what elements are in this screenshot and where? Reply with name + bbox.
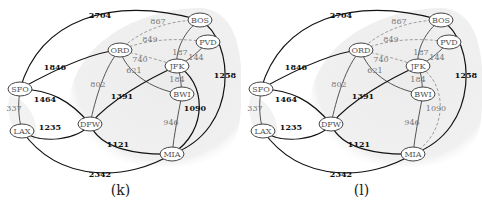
- edge-weight-label: 621: [126, 66, 141, 75]
- edge-weight-label: 2704: [330, 10, 353, 20]
- node-dfw: DFW: [319, 117, 343, 131]
- node-dfw: DFW: [78, 117, 102, 131]
- node-mia: MIA: [401, 147, 425, 161]
- caption-l: (l): [241, 182, 482, 198]
- edge-weight-label: 1464: [34, 94, 57, 104]
- node-label: LAX: [14, 127, 31, 136]
- edge-weight-label: 1258: [455, 70, 478, 80]
- edge-weight-label: 1391: [352, 91, 374, 101]
- node-label: SFO: [11, 85, 29, 94]
- panel-l: 2704867849740187144184662180218412581391…: [241, 0, 482, 220]
- node-label: JFK: [169, 62, 186, 71]
- node-label: ORD: [111, 46, 130, 55]
- node-label: LAX: [255, 127, 272, 136]
- edge-weight-label: 187: [172, 48, 187, 57]
- edge-weight-label: 1846: [285, 62, 308, 72]
- edge-weight-label: 187: [413, 48, 428, 57]
- node-ord: ORD: [108, 43, 132, 57]
- edge-weight-label: 1235: [39, 122, 61, 132]
- edge-weight-label: 337: [247, 104, 262, 113]
- node-label: MIA: [404, 150, 421, 159]
- node-jfk: JFK: [406, 59, 430, 73]
- edge-weight-label: 946: [163, 118, 178, 127]
- edge-weight-label: 184: [169, 75, 184, 84]
- node-label: SFO: [252, 85, 270, 94]
- edge-weight-label: 184: [410, 75, 425, 84]
- edge-weight-label: 2342: [89, 169, 111, 179]
- node-label: DFW: [321, 120, 342, 129]
- node-sfo: SFO: [8, 82, 32, 96]
- node-bos: BOS: [429, 13, 453, 27]
- edge-weight-label: 2704: [89, 10, 112, 20]
- edge-weight-label: 1391: [111, 91, 133, 101]
- edge-weight-label: 849: [383, 35, 398, 44]
- edge-weight-label: 946: [404, 118, 419, 127]
- node-label: JFK: [410, 62, 427, 71]
- edge-weight-label: 337: [6, 104, 21, 113]
- edge-weight-label: 1258: [214, 70, 237, 80]
- node-label: BWI: [414, 90, 431, 99]
- edge-weight-label: 849: [142, 35, 157, 44]
- node-label: BWI: [173, 90, 190, 99]
- edge-weight-label: 1464: [275, 94, 298, 104]
- edge-weight-label: 1846: [44, 62, 67, 72]
- node-jfk: JFK: [165, 59, 189, 73]
- node-sfo: SFO: [249, 82, 273, 96]
- edge-weight-label: 2342: [330, 169, 352, 179]
- node-label: ORD: [352, 46, 371, 55]
- node-label: BOS: [191, 16, 209, 25]
- edge-weight-label: 1090: [184, 103, 207, 113]
- node-label: MIA: [163, 150, 180, 159]
- edge-weight-label: 621: [367, 66, 382, 75]
- node-ord: ORD: [349, 43, 373, 57]
- node-lax: LAX: [10, 124, 34, 138]
- node-pvd: PVD: [196, 35, 220, 49]
- node-pvd: PVD: [437, 35, 461, 49]
- node-mia: MIA: [160, 147, 184, 161]
- edge-weight-label: 867: [150, 17, 165, 26]
- edge-weight-label: 1090: [426, 104, 446, 113]
- node-bos: BOS: [188, 13, 212, 27]
- node-label: DFW: [80, 120, 101, 129]
- edge-weight-label: 144: [429, 53, 444, 62]
- caption-k: (k): [0, 182, 241, 198]
- node-label: PVD: [199, 38, 217, 47]
- node-label: BOS: [432, 16, 450, 25]
- edge-weight-label: 1235: [280, 122, 302, 132]
- edge-weight-label: 1121: [348, 139, 370, 149]
- edge-weight-label: 1121: [107, 139, 129, 149]
- edge-weight-label: 802: [331, 80, 346, 89]
- edge-weight-label: 144: [188, 53, 203, 62]
- edge-weight-label: 740: [373, 55, 388, 64]
- edge-weight-label: 802: [90, 80, 105, 89]
- edge-weight-label: 867: [391, 17, 406, 26]
- node-lax: LAX: [251, 124, 275, 138]
- node-bwi: BWI: [411, 87, 435, 101]
- edge-weight-label: 740: [132, 55, 147, 64]
- panel-k: 2704867849740187144184662180218412581391…: [0, 0, 241, 220]
- node-bwi: BWI: [170, 87, 194, 101]
- node-label: PVD: [440, 38, 458, 47]
